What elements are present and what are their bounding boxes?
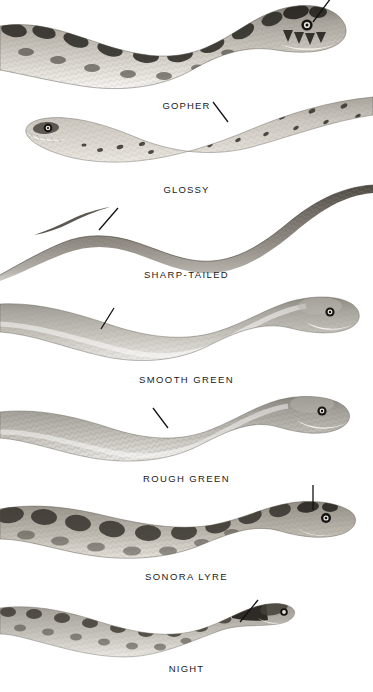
species-label-sharp-tailed: SHARP-TAILED <box>0 269 373 280</box>
rough-green-snake-illustration <box>0 390 373 470</box>
species-panel-rough-green <box>0 390 373 470</box>
pointer-line-glossy <box>213 102 228 122</box>
glossy-snake-illustration <box>0 95 373 181</box>
species-panel-night <box>0 590 373 664</box>
species-label-night: NIGHT <box>0 663 373 674</box>
species-label-rough-green: ROUGH GREEN <box>0 473 373 484</box>
pointer-line-rough-green <box>153 408 168 428</box>
pointer-line-sharp-tailed <box>99 208 118 230</box>
species-panel-smooth-green <box>0 290 373 370</box>
sonora-lyre-snake-illustration <box>0 485 373 567</box>
snake-illustration-plate: GOPHER <box>0 0 373 692</box>
smooth-green-snake-illustration <box>0 290 373 370</box>
species-label-smooth-green: SMOOTH GREEN <box>0 374 373 385</box>
species-panel-sonora-lyre <box>0 485 373 567</box>
species-panel-gopher <box>0 0 373 95</box>
gopher-snake-illustration <box>0 0 373 95</box>
species-label-sonora-lyre: SONORA LYRE <box>0 571 373 582</box>
species-panel-sharp-tailed <box>0 181 373 281</box>
sharp-tailed-snake-illustration <box>0 181 373 281</box>
night-snake-illustration <box>0 590 373 664</box>
species-panel-glossy <box>0 95 373 181</box>
